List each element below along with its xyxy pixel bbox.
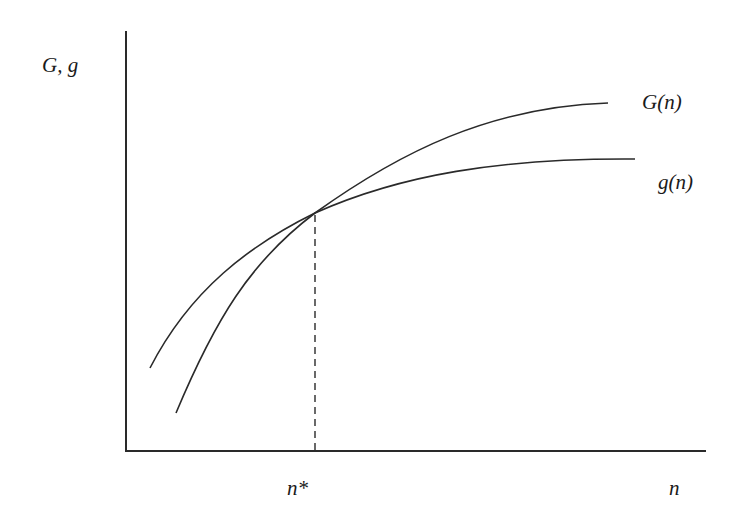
curve-g-label: g(n) [658,170,693,194]
curve-G-label: G(n) [642,90,682,114]
diagram-canvas: G, g G(n) g(n) n* n [0,0,744,509]
curve-g [150,159,635,368]
y-axis-label: G, g [42,53,78,77]
equilibrium-label: n* [287,476,309,500]
x-axis-label: n [669,476,680,500]
